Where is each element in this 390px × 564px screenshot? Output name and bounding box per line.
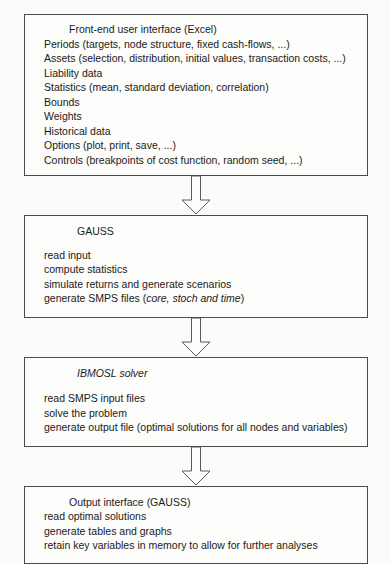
smps-suffix: ): [241, 292, 245, 304]
down-block-arrow-icon: [181, 318, 211, 357]
stage-line: simulate returns and generate scenarios: [44, 277, 367, 292]
stage-body-output-interface: read optimal solutions generate tables a…: [25, 509, 367, 553]
stage-line-smps: generate SMPS files (core, stoch and tim…: [44, 291, 367, 306]
flow-stage-gauss: GAUSS read input compute statistics simu…: [24, 215, 368, 318]
stage-line: solve the problem: [44, 406, 367, 421]
flow-stage-ibmosl-solver: IBMOSL solver read SMPS input files solv…: [24, 357, 368, 447]
stage-line: Bounds: [44, 95, 367, 110]
stage-title-output-interface: Output interface (GAUSS): [25, 495, 367, 510]
stage-line: generate tables and graphs: [44, 524, 367, 539]
stage-line: Options (plot, print, save, ...): [44, 138, 367, 153]
stage-line: retain key variables in memory to allow …: [44, 538, 367, 553]
stage-line: Liability data: [44, 66, 367, 81]
stage-line: Assets (selection, distribution, initial…: [44, 51, 367, 66]
stage-title-gauss: GAUSS: [25, 224, 367, 239]
stage-line: read SMPS input files: [44, 391, 367, 406]
stage-body-gauss: read input compute statistics simulate r…: [25, 239, 367, 306]
stage-line: compute statistics: [44, 262, 367, 277]
stage-line: Statistics (mean, standard deviation, co…: [44, 80, 367, 95]
flow-connector: [24, 447, 368, 486]
stage-line: read optimal solutions: [44, 509, 367, 524]
flow-connector: [24, 176, 368, 215]
stage-title-ibmosl-solver: IBMOSL solver: [25, 366, 367, 381]
stage-line: generate output file (optimal solutions …: [44, 420, 367, 435]
stage-line: Periods (targets, node structure, fixed …: [44, 37, 367, 52]
flow-connector: [24, 318, 368, 357]
stage-title-front-end-user-interface: Front-end user interface (Excel): [25, 22, 367, 37]
stage-line: read input: [44, 248, 367, 263]
stage-body-front-end-user-interface: Periods (targets, node structure, fixed …: [25, 37, 367, 168]
flow-stage-front-end-user-interface: Front-end user interface (Excel) Periods…: [24, 14, 368, 176]
flow-stage-output-interface: Output interface (GAUSS) read optimal so…: [24, 486, 368, 564]
down-block-arrow-icon: [181, 176, 211, 215]
smps-file-names: core, stoch and time: [146, 292, 241, 304]
flowchart: Front-end user interface (Excel) Periods…: [24, 14, 368, 564]
stage-line: Controls (breakpoints of cost function, …: [44, 153, 367, 168]
smps-prefix: generate SMPS files (: [44, 292, 146, 304]
stage-line: Historical data: [44, 124, 367, 139]
stage-body-ibmosl-solver: read SMPS input files solve the problem …: [25, 380, 367, 435]
stage-line: Weights: [44, 109, 367, 124]
down-block-arrow-icon: [181, 447, 211, 486]
